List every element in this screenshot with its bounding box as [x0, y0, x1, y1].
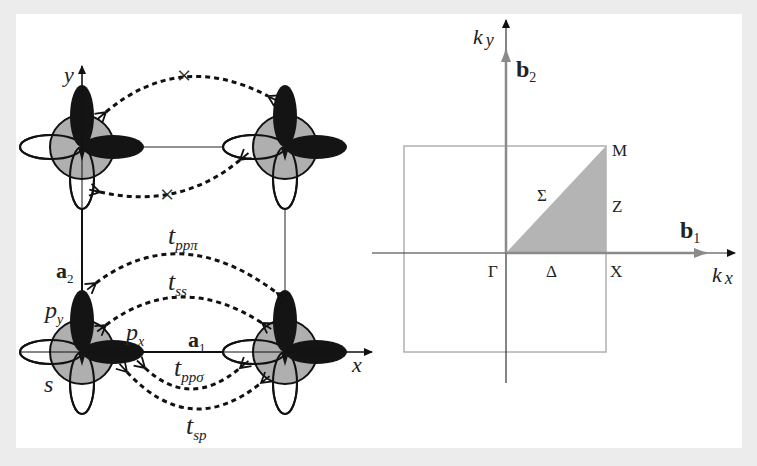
point-m-label: M: [612, 141, 627, 160]
s-label: s: [44, 371, 53, 397]
figure-svg: × × y x a2 a1 py px s tppπ tss tppσ tsp: [0, 0, 757, 466]
x-axis-label: x: [351, 352, 362, 377]
forbidden-mark-upper: ×: [177, 61, 192, 90]
label-tppsigma: tppσ: [174, 353, 204, 385]
real-space-lattice: × × y x a2 a1 py px s tppπ tss tppσ tsp: [20, 61, 372, 443]
point-x-label: X: [610, 262, 622, 281]
irreducible-wedge: [506, 146, 606, 253]
label-tsp: tsp: [186, 411, 207, 443]
label-tss: tss: [168, 267, 187, 299]
line-delta-label: Δ: [546, 262, 557, 281]
line-sigma-label: Σ: [537, 186, 547, 205]
orbital-site-top-right: [223, 85, 347, 209]
b2-label: b2: [516, 56, 536, 85]
ky-label: ky: [473, 24, 494, 50]
py-label: py: [43, 297, 64, 327]
point-gamma-label: Γ: [488, 262, 498, 281]
b1-label: b1: [680, 217, 700, 246]
line-z-label: Z: [612, 197, 622, 216]
a1-label: a1: [188, 327, 206, 355]
kx-label: kx: [712, 262, 733, 288]
a2-label: a2: [56, 258, 74, 286]
label-tpppi: tppπ: [168, 221, 198, 253]
y-axis-label: y: [62, 62, 74, 87]
px-label: px: [124, 319, 145, 349]
forbidden-mark-lower: ×: [160, 180, 175, 209]
brillouin-zone: ky kx b2 b1 M Z Σ Γ Δ X: [372, 20, 735, 383]
